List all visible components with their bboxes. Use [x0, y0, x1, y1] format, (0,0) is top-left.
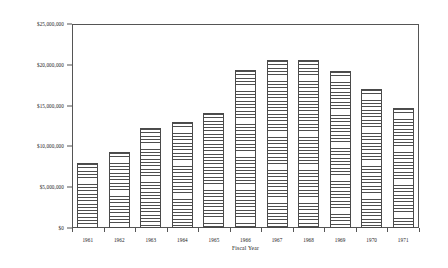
x-axis-tick-mark	[198, 228, 199, 232]
x-axis-tick-mark	[293, 228, 294, 232]
bar-1962	[109, 152, 130, 228]
y-axis-tick-label: $20,000,000	[37, 62, 64, 68]
bar-1969	[330, 71, 351, 228]
y-axis-tick-label: $0	[59, 225, 64, 231]
bar-1966	[235, 70, 256, 228]
bar-1961	[77, 163, 98, 228]
x-axis-tick-mark	[261, 228, 262, 232]
x-axis-tick-label: 1970	[366, 237, 377, 243]
x-axis-tick-label: 1962	[114, 237, 125, 243]
x-axis-tick-mark	[104, 228, 105, 232]
x-axis-tick-mark	[230, 228, 231, 232]
y-axis-tick-label: $15,000,000	[37, 103, 64, 109]
y-axis-tick-label: $25,000,000	[37, 21, 64, 27]
bars-container	[72, 24, 419, 228]
x-axis-tick-mark	[387, 228, 388, 232]
x-axis-tick-mark	[356, 228, 357, 232]
x-axis-tick-label: 1961	[82, 237, 93, 243]
x-axis-tick-label: 1967	[272, 237, 283, 243]
x-axis-tick-mark	[167, 228, 168, 232]
x-axis-tick-mark	[72, 228, 73, 232]
bar-1964	[172, 122, 193, 228]
y-axis-tick-label: $5,000,000	[40, 184, 64, 190]
bar-chart: $25,000,000$20,000,000$15,000,000$10,000…	[0, 0, 448, 268]
bar-1970	[361, 89, 382, 228]
y-axis-tick-label: $10,000,000	[37, 143, 64, 149]
x-axis-tick-label: 1968	[303, 237, 314, 243]
x-axis-title: Fiscal Year	[72, 245, 419, 251]
x-axis-tick-label: 1965	[209, 237, 220, 243]
x-axis-tick-mark	[135, 228, 136, 232]
bar-1965	[203, 113, 224, 228]
y-axis: $25,000,000$20,000,000$15,000,000$10,000…	[0, 0, 72, 268]
x-axis-tick-label: 1971	[398, 237, 409, 243]
x-axis-tick-label: 1966	[240, 237, 251, 243]
bar-1971	[393, 108, 414, 228]
bar-1968	[298, 60, 319, 228]
bar-1963	[140, 128, 161, 228]
x-axis-tick-label: 1964	[177, 237, 188, 243]
x-axis-tick-mark	[324, 228, 325, 232]
x-axis-tick-mark	[419, 228, 420, 232]
x-axis-tick-label: 1963	[145, 237, 156, 243]
bar-1967	[267, 60, 288, 228]
x-axis-tick-label: 1969	[335, 237, 346, 243]
